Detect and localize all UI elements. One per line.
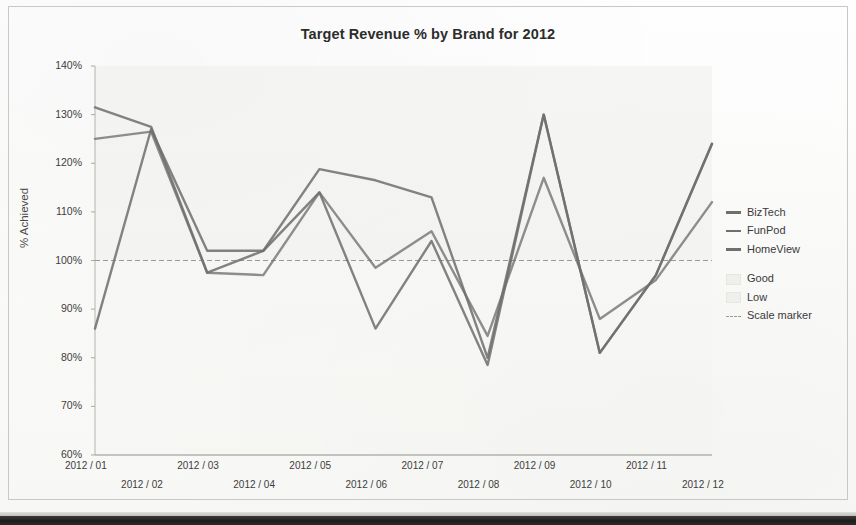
legend-marker-glyph <box>726 292 741 303</box>
legend-item-good[interactable]: Good <box>726 270 846 289</box>
legend-item-homeview[interactable]: HomeView <box>726 240 846 259</box>
chart-legend: BizTechFunPodHomeViewGoodLowScale marker <box>726 203 846 325</box>
legend-swatch-line-icon <box>726 206 741 218</box>
legend-item-biztech[interactable]: BizTech <box>726 203 846 222</box>
legend-marker-glyph <box>726 248 741 250</box>
legend-item-funpod[interactable]: FunPod <box>726 222 846 241</box>
legend-marker-glyph <box>726 316 741 317</box>
legend-item-scale-marker[interactable]: Scale marker <box>726 307 846 326</box>
page-bottom-edge <box>0 516 856 525</box>
legend-item-label: FunPod <box>747 225 786 236</box>
legend-marker-glyph <box>726 230 741 232</box>
legend-swatch-line-icon <box>726 243 741 255</box>
legend-swatch-band-icon <box>726 291 741 303</box>
legend-marker-glyph <box>726 274 741 285</box>
legend-marker-glyph <box>726 211 741 213</box>
legend-swatch-line-icon <box>726 225 741 237</box>
legend-item-label: HomeView <box>747 244 800 255</box>
legend-swatch-band-icon <box>726 273 741 285</box>
legend-item-label: Low <box>747 292 767 303</box>
legend-item-low[interactable]: Low <box>726 288 846 307</box>
legend-item-label: Scale marker <box>747 310 812 321</box>
legend-swatch-dash-icon <box>726 310 741 322</box>
legend-item-label: BizTech <box>747 207 786 218</box>
legend-item-label: Good <box>747 273 774 284</box>
